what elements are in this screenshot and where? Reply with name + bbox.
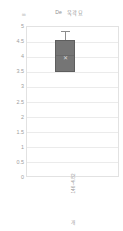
x-axis-title: 개 xyxy=(56,219,90,225)
y-tick-label: 0.5 xyxy=(2,159,24,165)
y-axis: 5 4.5 4 3.5 3 2.5 2 1.5 1 0.5 0 xyxy=(0,26,24,177)
y-tick-label: 5 xyxy=(2,23,24,29)
y-tick-label: 2.5 xyxy=(2,99,24,105)
mean-marker-icon: ✕ xyxy=(55,55,75,61)
y-tick-label: 1.5 xyxy=(2,129,24,135)
whisker-line-upper xyxy=(65,31,66,40)
chart-title: De 욱곽묘 xyxy=(34,6,104,18)
y-axis-unit-label: ㎜ xyxy=(12,12,26,17)
whisker-cap-upper xyxy=(61,31,70,32)
x-tick-label: 146~4.82 xyxy=(56,181,90,215)
y-tick-label: 4.5 xyxy=(2,38,24,44)
y-tick-label: 2 xyxy=(2,114,24,120)
y-tick-label: 4 xyxy=(2,53,24,59)
x-axis: 146~4.82 개 xyxy=(26,177,119,231)
plot-area: ✕ xyxy=(26,26,119,177)
chart-title-name: 욱곽묘 xyxy=(67,9,83,16)
boxplot-series: ✕ xyxy=(27,27,118,176)
x-tick-label-text: 146~4.82 xyxy=(71,173,76,193)
y-tick-label: 0 xyxy=(2,174,24,180)
y-tick-label: 3.5 xyxy=(2,68,24,74)
y-tick-label: 1 xyxy=(2,144,24,150)
chart-title-prefix: De xyxy=(55,9,62,15)
chart-container: De 욱곽묘 ㎜ 5 4.5 4 3.5 3 2.5 2 1.5 1 0.5 0 xyxy=(0,0,123,231)
y-tick-label: 3 xyxy=(2,83,24,89)
